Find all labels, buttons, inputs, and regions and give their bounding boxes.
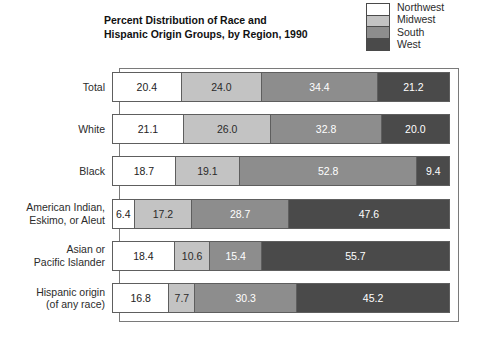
bar-segment-west: 45.2 <box>297 284 449 312</box>
bar-segment-west: 55.7 <box>262 242 449 270</box>
legend-swatch-west <box>367 39 389 51</box>
bar-row-label: White <box>0 123 112 135</box>
bar-row-label-line: Pacific Islander <box>0 256 105 268</box>
bar-segment-west: 9.4 <box>417 157 449 185</box>
bar-segment-northwest: 18.4 <box>113 242 175 270</box>
bar-row-label-line: American Indian, <box>0 201 105 213</box>
bar-segment-south: 32.8 <box>271 115 381 143</box>
stacked-bar: 18.719.152.89.4 <box>112 156 450 186</box>
bar-row-label: Hispanic origin(of any race) <box>0 286 112 311</box>
bar-row-label-line: Asian or <box>0 243 105 255</box>
bar-segment-midwest: 10.6 <box>175 242 211 270</box>
legend-swatch-northwest <box>367 4 389 16</box>
bar-segment-south: 30.3 <box>195 284 297 312</box>
bar-segment-midwest: 7.7 <box>169 284 195 312</box>
bar-row-label: Total <box>0 81 112 93</box>
stacked-bar: 21.126.032.820.0 <box>112 114 450 144</box>
stacked-bar: 16.87.730.345.2 <box>112 283 450 313</box>
bar-segment-northwest: 21.1 <box>113 115 184 143</box>
legend-swatch-stack <box>366 3 390 51</box>
bar-row-label-line: Total <box>0 81 105 93</box>
bar-row: American Indian,Eskimo, or Aleut6.417.22… <box>0 199 477 229</box>
bar-segment-west: 21.2 <box>378 73 449 101</box>
chart-figure: NorthwestMidwestSouthWest Percent Distri… <box>0 0 477 339</box>
chart-title-line-2: Hispanic Origin Groups, by Region, 1990 <box>104 28 308 42</box>
bar-row-label-line: White <box>0 123 105 135</box>
bar-segment-northwest: 20.4 <box>113 73 182 101</box>
bar-row-label: Black <box>0 165 112 177</box>
bar-segment-west: 47.6 <box>289 200 449 228</box>
bar-rows-container: Total20.424.034.421.2White21.126.032.820… <box>0 68 477 322</box>
bar-segment-south: 15.4 <box>210 242 262 270</box>
legend-label-northwest: Northwest <box>397 1 444 13</box>
legend-swatch-south <box>367 27 389 39</box>
stacked-bar: 20.424.034.421.2 <box>112 72 450 102</box>
bar-segment-west: 20.0 <box>382 115 449 143</box>
bar-segment-northwest: 16.8 <box>113 284 169 312</box>
bar-row-label: American Indian,Eskimo, or Aleut <box>0 201 112 226</box>
stacked-bar: 18.410.615.455.7 <box>112 241 450 271</box>
bar-row: White21.126.032.820.0 <box>0 114 477 144</box>
bar-segment-midwest: 19.1 <box>176 157 240 185</box>
bar-row-label-line: (of any race) <box>0 298 105 310</box>
bar-segment-south: 34.4 <box>262 73 378 101</box>
bar-segment-south: 28.7 <box>192 200 289 228</box>
bar-row: Black18.719.152.89.4 <box>0 156 477 186</box>
bar-segment-midwest: 26.0 <box>184 115 271 143</box>
chart-title-line-1: Percent Distribution of Race and <box>104 14 308 28</box>
bar-row: Asian orPacific Islander18.410.615.455.7 <box>0 241 477 271</box>
bar-segment-northwest: 18.7 <box>113 157 176 185</box>
bar-segment-midwest: 24.0 <box>182 73 263 101</box>
legend-label-stack: NorthwestMidwestSouthWest <box>397 1 444 50</box>
chart-title: Percent Distribution of Race and Hispani… <box>104 14 308 41</box>
legend-label-south: South <box>397 26 444 38</box>
bar-row-label-line: Hispanic origin <box>0 286 105 298</box>
legend-label-west: West <box>397 38 444 50</box>
bar-segment-northwest: 6.4 <box>113 200 135 228</box>
chart-legend: NorthwestMidwestSouthWest <box>366 3 444 51</box>
legend-swatch-midwest <box>367 16 389 28</box>
bar-segment-south: 52.8 <box>240 157 417 185</box>
bar-row: Hispanic origin(of any race)16.87.730.34… <box>0 283 477 313</box>
bar-row-label-line: Eskimo, or Aleut <box>0 214 105 226</box>
bar-segment-midwest: 17.2 <box>135 200 193 228</box>
bar-row: Total20.424.034.421.2 <box>0 72 477 102</box>
stacked-bar: 6.417.228.747.6 <box>112 199 450 229</box>
bar-row-label: Asian orPacific Islander <box>0 243 112 268</box>
legend-label-midwest: Midwest <box>397 13 444 25</box>
bar-row-label-line: Black <box>0 165 105 177</box>
